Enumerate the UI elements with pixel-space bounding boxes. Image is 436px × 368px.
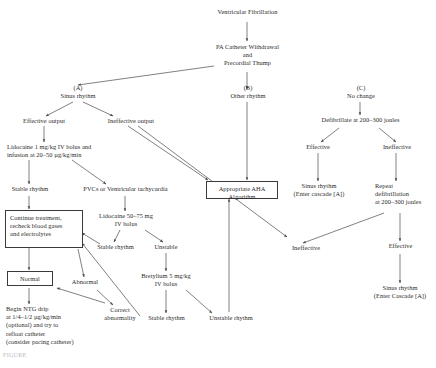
node-branch-a-sinus-rhythm: (A) Sinus rhythm [42, 84, 114, 100]
flowchart-canvas: Ventricular Fibrillation PA Catheter Wit… [0, 0, 436, 368]
node-stable-rhythm-3: Stable rhythm [140, 314, 193, 322]
node-appropriate-aha-algorithm-box: Appropriate AHA Algorithm [206, 181, 278, 199]
node-effective-output: Effective output [8, 117, 80, 125]
node-begin-ntg-drip: Begin NTG drip at 1/4–1/2 µg/kg/min (opt… [6, 305, 94, 346]
node-unstable-rhythm: Unstable rhythm [203, 314, 259, 322]
node-unstable: Unstable [149, 243, 183, 251]
node-ventricular-fibrillation: Ventricular Fibrillation [200, 8, 295, 16]
node-branch-b-other-rhythm: (B) Other rhythm [213, 84, 283, 100]
node-pa-catheter-withdrawal: PA Catheter Withdrawal and Precordial Th… [196, 43, 299, 68]
node-effective-c: Effective [295, 143, 341, 151]
node-sinus-rhythm-enter-cascade-2: Sinus rhythm (Enter Cascade [A]) [365, 284, 435, 300]
node-repeat-defibrillation: Repeat defibrillation at 200–300 joules [375, 182, 436, 207]
node-bretylium-bolus: Bretylium 5 mg/kg IV bolus [133, 272, 199, 288]
node-sinus-rhythm-enter-cascade-1: Sinus rhythm (Enter cascade [A]) [284, 182, 354, 198]
node-stable-rhythm-1: Stable rhythm [2, 185, 58, 193]
node-defibrillate-200-300-joules: Defibrillate at 200–300 joules [299, 116, 422, 124]
node-ineffective-output: Ineffective output [92, 117, 170, 125]
node-effective-2: Effective [378, 242, 423, 250]
node-lidocaine-repeat-bolus: Lidocaine 50–75 mg IV bolus [92, 212, 160, 228]
node-normal-box: Normal [7, 271, 53, 286]
node-pvcs-or-ventricular-tachycardia: PVCs or Ventricular tachycardia [59, 185, 192, 193]
node-abnormal: Abnormal [64, 278, 106, 286]
node-lidocaine-initial-bolus: Lidocaine 1 mg/kg IV bolus and infusion … [7, 143, 129, 159]
node-ineffective-2: Ineffective [283, 244, 329, 252]
node-ineffective-c: Ineffective [374, 143, 420, 151]
node-stable-rhythm-2: Stable rhythm [89, 243, 142, 251]
figure-caption-artifact: FIGURE [3, 352, 26, 358]
node-branch-c-no-change: (C) No change [326, 84, 396, 100]
node-correct-abnormality: Correct abnormality [97, 306, 143, 322]
node-continue-treatment-box: Continue treatment, recheck blood gases … [5, 210, 83, 248]
